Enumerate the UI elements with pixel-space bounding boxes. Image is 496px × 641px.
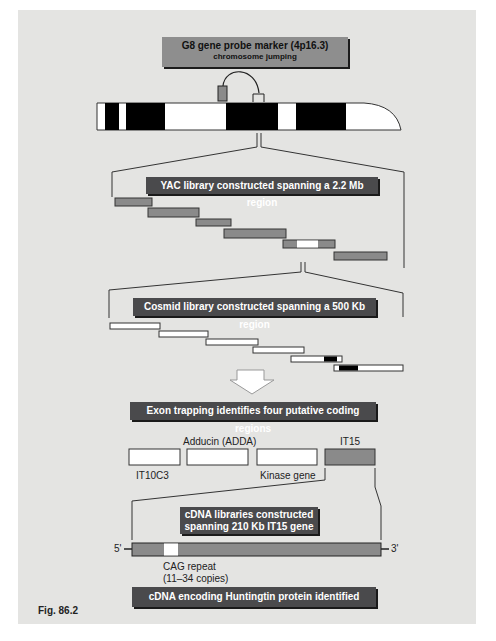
label-cag-copies: (11–34 copies)	[163, 573, 228, 584]
label-it10c3: IT10C3	[136, 470, 169, 481]
label-3-prime: 3'	[391, 543, 398, 554]
cdna-subtitle: spanning 210 Kb IT15 gene	[180, 521, 318, 533]
chromosome-icon	[97, 103, 401, 130]
label-adducin: Adducin (ADDA)	[183, 436, 256, 447]
cdna-library-box: cDNA libraries constructed spanning 210 …	[180, 507, 318, 534]
label-it15: IT15	[340, 436, 360, 447]
probe-subtitle: chromosome jumping	[162, 52, 348, 62]
figure-label: Fig. 86.2	[38, 605, 78, 616]
yac-library-box: YAC library constructed spanning a 2.2 M…	[146, 177, 378, 194]
exon-trapping-box: Exon trapping identifies four putative c…	[130, 402, 376, 420]
label-5-prime: 5'	[114, 543, 121, 554]
probe-title: G8 gene probe marker (4p16.3)	[162, 40, 348, 52]
probe-marker-box: G8 gene probe marker (4p16.3) chromosome…	[162, 37, 348, 67]
cdna-title: cDNA libraries constructed	[180, 509, 318, 521]
cosmid-library-box: Cosmid library constructed spanning a 50…	[133, 298, 376, 316]
huntingtin-result-box: cDNA encoding Huntingtin protein identif…	[132, 587, 376, 607]
result-title: cDNA encoding Huntingtin protein identif…	[149, 591, 360, 602]
coding-region-boxes	[129, 449, 375, 465]
label-cag-repeat: CAG repeat	[163, 561, 216, 572]
down-arrow-icon	[230, 370, 274, 394]
it15-gene-bar	[124, 543, 389, 556]
probe-marker-icon	[218, 72, 264, 102]
label-kinase: Kinase gene	[260, 470, 316, 481]
